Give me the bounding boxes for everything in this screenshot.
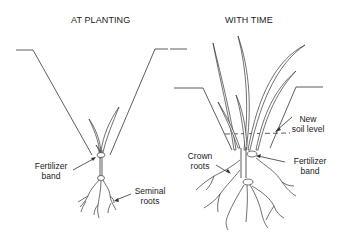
panel-title-with-time: WITH TIME [225,15,273,25]
label-fertilizer-band-right: Fertilizer band [285,156,335,176]
panel-title-at-planting: AT PLANTING [71,15,130,25]
left-roots [78,180,116,218]
right-stem [241,148,257,185]
label-seminal-roots: Seminal roots [130,186,170,206]
left-furrow [16,49,168,155]
label-new-soil-level: New soil level [283,114,333,134]
label-crown-roots: Crown roots [183,151,217,171]
label-fertilizer-band-left: Fertilizer band [27,161,75,181]
